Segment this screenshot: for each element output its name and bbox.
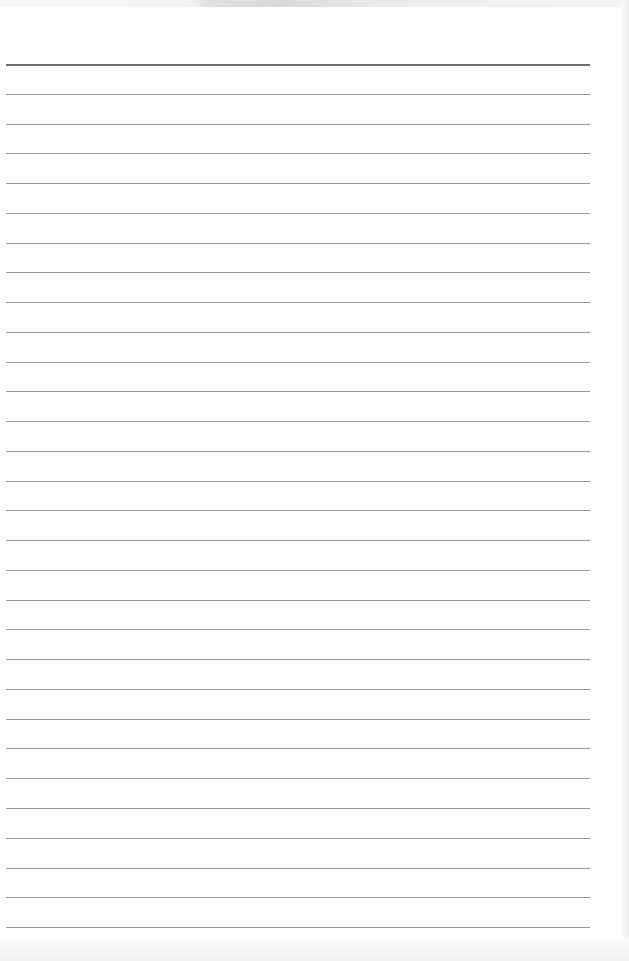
rule-line — [6, 659, 590, 660]
rule-line — [6, 243, 590, 244]
rule-line — [6, 391, 590, 392]
lined-paper-page — [0, 0, 629, 961]
rule-line — [6, 510, 590, 511]
rule-line — [6, 570, 590, 571]
rule-line — [6, 868, 590, 869]
rule-line — [6, 302, 590, 303]
rule-line — [6, 272, 590, 273]
rule-line — [6, 600, 590, 601]
rule-line — [6, 94, 590, 95]
header-rule-line — [6, 64, 590, 66]
rule-line — [6, 362, 590, 363]
rule-line — [6, 481, 590, 482]
rule-line — [6, 778, 590, 779]
rule-line — [6, 540, 590, 541]
rule-line — [6, 748, 590, 749]
rule-line — [6, 183, 590, 184]
rule-line — [6, 927, 590, 928]
rule-line — [6, 124, 590, 125]
rule-line — [6, 838, 590, 839]
rule-line — [6, 213, 590, 214]
scan-shadow-top — [0, 0, 629, 7]
rule-line — [6, 451, 590, 452]
scan-shadow-right — [621, 0, 629, 961]
rule-line — [6, 629, 590, 630]
rule-line — [6, 153, 590, 154]
rule-line — [6, 421, 590, 422]
rule-line — [6, 808, 590, 809]
rule-line — [6, 332, 590, 333]
scan-shadow-bottom — [0, 939, 629, 961]
rule-line — [6, 897, 590, 898]
rule-line — [6, 719, 590, 720]
rule-line — [6, 689, 590, 690]
